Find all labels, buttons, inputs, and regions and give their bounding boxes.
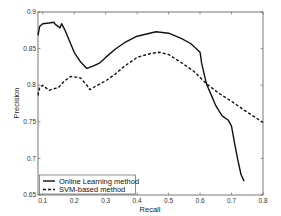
legend: Online Learning method SVM-based method [40,175,140,194]
precision-recall-chart: 0.10.20.30.40.50.60.70.8 0.650.70.750.80… [0,0,281,216]
x-axis-label: Recall [140,205,161,214]
x-tick-label: 0.3 [101,197,110,204]
x-tick-label: 0.2 [70,197,79,204]
x-tick-label: 0.4 [133,197,142,204]
y-tick-label: 0.7 [27,155,36,162]
x-tick-label: 0.5 [164,197,173,204]
x-tick-label: 0.1 [38,197,47,204]
legend-label-svm: SVM-based method [59,185,125,194]
y-tick-label: 0.85 [23,45,36,52]
y-tick-label: 0.8 [27,81,36,88]
x-tick-label: 0.6 [196,197,205,204]
y-axis-label: Precision [12,88,21,119]
plot-area [38,12,263,195]
x-tick-label: 0.7 [227,197,236,204]
y-tick-label: 0.9 [27,8,36,15]
x-tick-label: 0.8 [258,197,267,204]
y-tick-label: 0.65 [23,191,36,198]
y-tick-label: 0.75 [23,118,36,125]
